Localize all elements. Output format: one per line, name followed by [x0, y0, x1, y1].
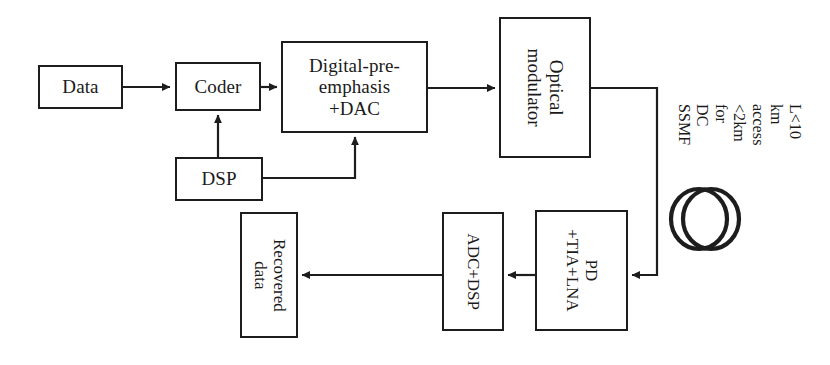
- block-optical-modulator-label: Optical modulator: [523, 48, 566, 126]
- block-diagram-canvas: Data Coder Digital-pre- emphasis +DAC Op…: [0, 0, 830, 365]
- block-data-label: Data: [62, 76, 98, 98]
- fiber-spool-icon: [671, 189, 739, 249]
- block-adc-dsp-label: ADC+DSP: [463, 233, 482, 310]
- block-pd-tia-lna[interactable]: PD +TIA+LNA: [535, 210, 628, 331]
- block-recovered-data-label: Recovered data: [250, 239, 289, 312]
- block-coder-label: Coder: [195, 76, 242, 98]
- block-coder[interactable]: Coder: [175, 62, 261, 111]
- block-digital-pre-emphasis-dac[interactable]: Digital-pre- emphasis +DAC: [281, 41, 428, 133]
- block-adc-dsp[interactable]: ADC+DSP: [442, 212, 504, 331]
- connector-dsp-to-dpe: [263, 137, 355, 178]
- block-digital-pre-emphasis-dac-label: Digital-pre- emphasis +DAC: [309, 55, 400, 120]
- block-recovered-data[interactable]: Recovered data: [240, 212, 298, 338]
- block-pd-tia-lna-label: PD +TIA+LNA: [562, 229, 601, 311]
- block-dsp[interactable]: DSP: [175, 157, 263, 201]
- block-data[interactable]: Data: [38, 65, 123, 109]
- annotation-fiber-length: L<10 km access <2km for DC SSMF: [674, 104, 804, 145]
- block-dsp-label: DSP: [201, 168, 236, 190]
- block-optical-modulator[interactable]: Optical modulator: [499, 17, 591, 158]
